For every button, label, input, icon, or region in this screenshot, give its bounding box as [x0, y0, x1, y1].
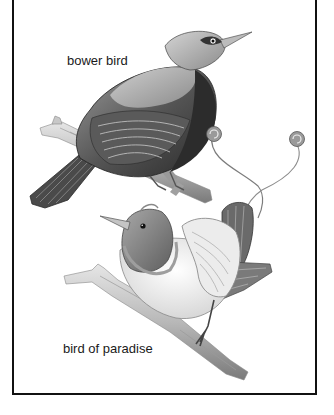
bower-bird-label: bower bird — [67, 54, 128, 67]
paradise-tail-wires — [207, 127, 305, 219]
bower-bird — [30, 31, 252, 208]
bird-illustration — [0, 0, 334, 415]
bird-of-paradise-label: bird of paradise — [63, 342, 153, 355]
